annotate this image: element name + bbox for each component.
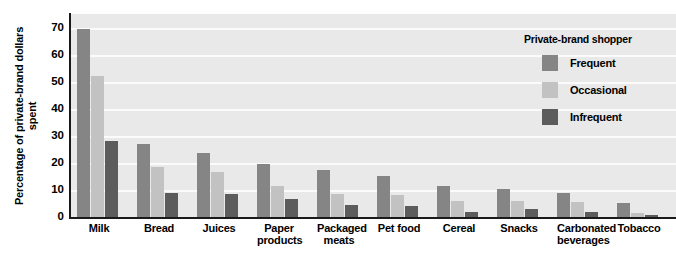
x-axis-line: [69, 217, 676, 219]
bar-group: [197, 14, 257, 217]
bar: [77, 29, 90, 217]
bar: [91, 76, 104, 217]
legend-title: Private-brand shopper: [524, 33, 674, 45]
legend-swatch-icon: [542, 82, 558, 98]
bar: [511, 201, 524, 217]
bar: [271, 186, 284, 217]
legend-swatch-icon: [542, 55, 558, 71]
bar-group: [377, 14, 437, 217]
x-axis-category-label: Carbonated beverages: [557, 222, 617, 258]
y-axis-tick-label: 20: [34, 157, 64, 168]
bar: [285, 199, 298, 217]
bar: [557, 193, 570, 217]
x-axis-category-label: Juices: [197, 222, 257, 258]
legend-item: Frequent: [542, 55, 674, 71]
bar: [497, 189, 510, 217]
bar: [377, 176, 390, 217]
chart-legend: Private-brand shopper FrequentOccasional…: [524, 33, 674, 136]
y-axis-tick-label: 50: [34, 76, 64, 87]
x-axis-category-label: Pet food: [377, 222, 437, 258]
x-axis-category-label: Paper products: [257, 222, 317, 258]
bar: [645, 215, 658, 217]
x-axis-category-label: Milk: [77, 222, 137, 258]
x-axis-category-label: Snacks: [497, 222, 557, 258]
bar: [451, 201, 464, 217]
legend-items: FrequentOccasionalInfrequent: [524, 55, 674, 125]
bar: [525, 209, 538, 217]
bar: [197, 153, 210, 217]
bar-chart: Percentage of private-brand dollars spen…: [0, 0, 676, 258]
bar: [137, 144, 150, 217]
bar-group: [77, 14, 137, 217]
legend-item: Occasional: [542, 82, 674, 98]
bar: [391, 195, 404, 217]
y-axis-tick-label: 0: [34, 211, 64, 222]
x-axis-category-label: Cereal: [437, 222, 497, 258]
bar: [331, 194, 344, 217]
legend-swatch-icon: [542, 109, 558, 125]
legend-item-label: Frequent: [570, 57, 615, 69]
bar-group: [257, 14, 317, 217]
legend-item-label: Infrequent: [570, 111, 622, 123]
x-axis-category-labels: MilkBreadJuicesPaper productsPackaged me…: [71, 222, 676, 258]
bar: [571, 202, 584, 217]
y-axis-tick-label: 40: [34, 103, 64, 114]
y-axis-tick-label: 70: [34, 22, 64, 33]
y-axis-tick-label: 30: [34, 130, 64, 141]
legend-item-label: Occasional: [570, 84, 627, 96]
y-axis-tick-label: 10: [34, 184, 64, 195]
bar-group: [137, 14, 197, 217]
x-axis-category-label: Tobacco: [617, 222, 676, 258]
bar: [631, 213, 644, 217]
legend-item: Infrequent: [542, 109, 674, 125]
bar: [465, 212, 478, 217]
bar: [585, 212, 598, 217]
bar: [151, 167, 164, 217]
x-axis-category-label: Bread: [137, 222, 197, 258]
bar: [405, 206, 418, 217]
bar-group: [437, 14, 497, 217]
bar-group: [317, 14, 377, 217]
bar: [225, 194, 238, 217]
bar: [317, 170, 330, 217]
y-axis-tick-label: 60: [34, 49, 64, 60]
bar: [345, 205, 358, 217]
x-axis-category-label: Packaged meats: [317, 222, 377, 258]
y-axis-tick-labels: 010203040506070: [34, 0, 64, 258]
bar: [211, 172, 224, 217]
bar: [105, 141, 118, 217]
bar: [165, 193, 178, 217]
bar: [437, 186, 450, 217]
bar: [257, 164, 270, 217]
bar: [617, 203, 630, 217]
